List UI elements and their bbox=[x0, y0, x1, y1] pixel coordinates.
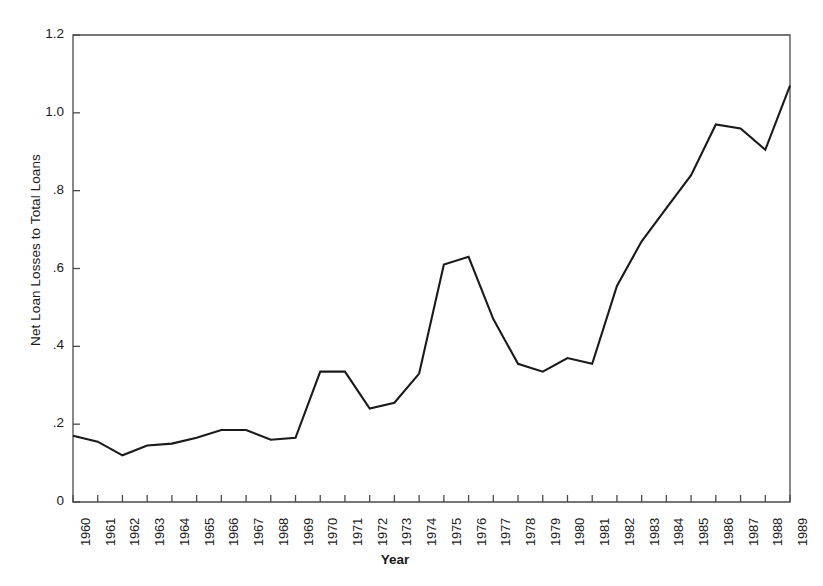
x-tick-label: 1974 bbox=[424, 518, 439, 546]
x-tick-label: 1981 bbox=[597, 518, 612, 546]
x-tick-label: 1961 bbox=[103, 518, 118, 546]
y-tick-label: .6 bbox=[53, 260, 64, 275]
y-tick-label: 1.2 bbox=[45, 26, 64, 41]
x-tick-label: 1986 bbox=[721, 518, 736, 546]
x-tick-label: 1984 bbox=[671, 518, 686, 546]
x-tick-label: 1967 bbox=[251, 518, 266, 546]
plot-frame bbox=[73, 35, 790, 502]
x-tick-label: 1968 bbox=[276, 518, 291, 546]
x-tick-label: 1987 bbox=[746, 518, 761, 546]
x-tick-label: 1977 bbox=[498, 518, 513, 546]
x-tick-label: 1963 bbox=[152, 518, 167, 546]
x-tick-label: 1976 bbox=[474, 518, 489, 546]
plot-area bbox=[0, 0, 823, 586]
x-tick-label: 1966 bbox=[226, 518, 241, 546]
chart-figure: Net Loan Losses to Total Loans 0.2.4.6.8… bbox=[0, 0, 823, 586]
x-tick-label: 1982 bbox=[622, 518, 637, 546]
x-tick-label: 1985 bbox=[696, 518, 711, 546]
y-tick-label: 0 bbox=[56, 493, 64, 508]
x-tick-label: 1979 bbox=[548, 518, 563, 546]
y-tick-label: 1.0 bbox=[45, 104, 64, 119]
y-tick-label: .8 bbox=[53, 182, 64, 197]
x-tick-label: 1970 bbox=[325, 518, 340, 546]
y-tick-label: .2 bbox=[53, 415, 64, 430]
x-tick-label: 1983 bbox=[647, 518, 662, 546]
x-tick-label: 1978 bbox=[523, 518, 538, 546]
x-tick-label: 1980 bbox=[572, 518, 587, 546]
data-line-group bbox=[73, 86, 790, 456]
x-tick-label: 1964 bbox=[177, 518, 192, 546]
x-tick-label: 1972 bbox=[375, 518, 390, 546]
x-tick-label: 1962 bbox=[127, 518, 142, 546]
x-tick-label: 1971 bbox=[350, 518, 365, 546]
x-tick-label: 1960 bbox=[78, 518, 93, 546]
x-tick-label: 1989 bbox=[795, 518, 810, 546]
y-axis-title: Net Loan Losses to Total Loans bbox=[28, 100, 43, 400]
x-tick-label: 1965 bbox=[202, 518, 217, 546]
x-tick-label: 1975 bbox=[449, 518, 464, 546]
x-tick-label: 1988 bbox=[770, 518, 785, 546]
y-tick-label: .4 bbox=[53, 337, 64, 352]
x-tick-label: 1973 bbox=[399, 518, 414, 546]
x-axis-title: Year bbox=[330, 552, 460, 567]
axis-ticks bbox=[73, 35, 790, 502]
x-tick-label: 1969 bbox=[301, 518, 316, 546]
